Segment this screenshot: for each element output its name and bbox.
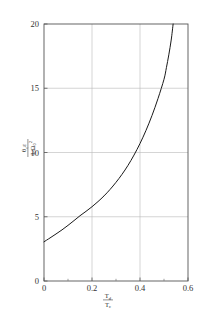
x-tick-label: 0.4 [135,283,146,293]
svg-text:θcε: θcε [20,144,29,152]
x-axis-tick-labels: 00.20.40.6 [42,283,193,293]
svg-text:Td: Td [105,292,112,301]
x-tick-label: 0.6 [183,283,194,293]
y-tick-label: 0 [35,276,39,286]
line-chart: 00.20.40.6 05101520 Td Tc θcε I0Ω02 [0,0,206,326]
x-tick-label: 0.2 [87,283,98,293]
y-tick-label: 15 [31,83,40,93]
x-tick-label: 0 [42,283,46,293]
chart-figure: 00.20.40.6 05101520 Td Tc θcε I0Ω02 [0,0,206,326]
y-tick-label: 5 [35,212,39,222]
svg-text:Tc: Tc [105,301,111,310]
x-axis-label: Td Tc [103,292,113,309]
y-axis-label: θcε I0Ω02 [20,139,37,157]
y-tick-label: 20 [31,19,40,29]
